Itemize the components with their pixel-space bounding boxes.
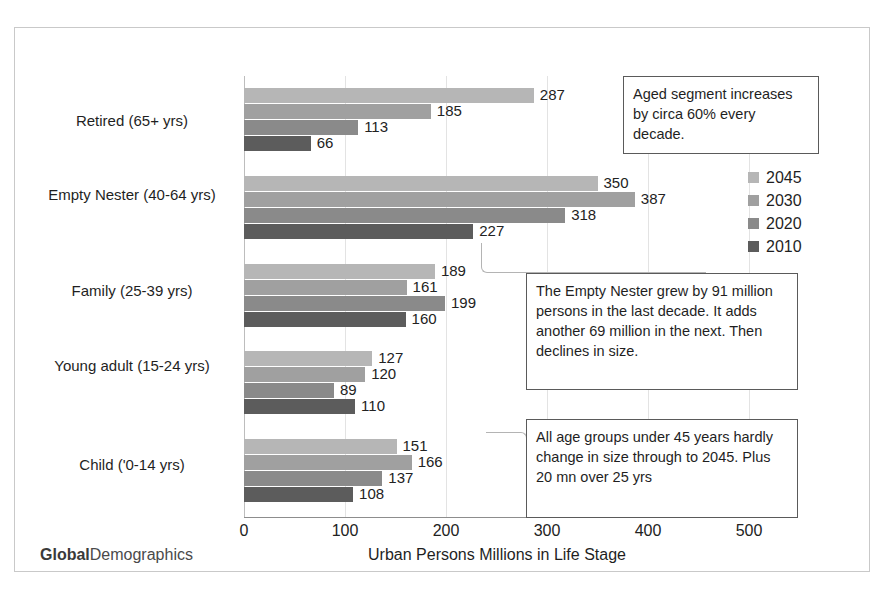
bar-2030[interactable] [244,280,407,295]
x-tick-400: 400 [635,522,662,540]
bar-value-label: 185 [437,103,462,119]
category-label-young-adult: Young adult (15-24 yrs) [27,356,237,376]
legend: 2045203020202010 [748,166,848,258]
x-tick-300: 300 [534,522,561,540]
bar-2010[interactable] [244,487,353,502]
leader-line-empty-nester [481,243,706,273]
bar-value-label: 287 [540,87,565,103]
bar-2020[interactable] [244,296,445,311]
callout-aged-segment: Aged segment increases by circa 60% ever… [623,76,819,154]
legend-swatch-icon [748,241,759,252]
legend-item-2020[interactable]: 2020 [748,212,848,235]
bar-2020[interactable] [244,383,334,398]
leader-line-child [486,432,527,499]
bar-value-label: 318 [571,207,596,223]
bar-value-label: 160 [412,311,437,327]
bar-2020[interactable] [244,208,565,223]
bar-value-label: 89 [340,382,357,398]
bar-value-label: 166 [418,454,443,470]
bar-value-label: 120 [371,366,396,382]
legend-swatch-icon [748,172,759,183]
x-tick-100: 100 [332,522,359,540]
legend-swatch-icon [748,218,759,229]
bar-value-label: 350 [604,175,629,191]
brand-logo: GlobalDemographics [40,546,193,564]
bar-2010[interactable] [244,136,311,151]
bar-2030[interactable] [244,367,365,382]
bar-value-label: 161 [413,279,438,295]
category-label-family: Family (25-39 yrs) [27,281,237,301]
bar-value-label: 151 [403,438,428,454]
bar-value-label: 110 [361,398,385,414]
bar-2045[interactable] [244,439,397,454]
legend-label: 2020 [766,215,802,233]
x-tick-500: 500 [736,522,763,540]
bar-value-label: 66 [317,135,334,151]
brand-logo-bold: Global [40,546,90,563]
bar-2045[interactable] [244,351,372,366]
bar-2020[interactable] [244,120,358,135]
category-label-empty-nester: Empty Nester (40-64 yrs) [27,185,237,205]
bar-value-label: 108 [359,486,384,502]
x-tick-0: 0 [240,522,249,540]
legend-item-2010[interactable]: 2010 [748,235,848,258]
category-label-child: Child ('0-14 yrs) [27,455,237,475]
bar-2010[interactable] [244,399,355,414]
bar-2045[interactable] [244,264,435,279]
bar-value-label: 199 [451,295,476,311]
category-label-retired: Retired (65+ yrs) [27,111,237,131]
x-tick-200: 200 [433,522,460,540]
bar-2045[interactable] [244,176,598,191]
callout-empty-nester: The Empty Nester grew by 91 million pers… [526,273,798,390]
bar-2010[interactable] [244,312,406,327]
bar-2030[interactable] [244,192,635,207]
bar-value-label: 137 [388,470,413,486]
legend-label: 2030 [766,192,802,210]
callout-under-45: All age groups under 45 years hardly cha… [526,419,798,518]
legend-item-2045[interactable]: 2045 [748,166,848,189]
bar-2010[interactable] [244,224,473,239]
legend-swatch-icon [748,195,759,206]
brand-logo-rest: Demographics [90,546,193,563]
bar-row: 110 [244,399,884,414]
category-axis-labels: Retired (65+ yrs) Empty Nester (40-64 yr… [25,28,237,573]
chart-frame: Retired (65+ yrs) Empty Nester (40-64 yr… [14,27,870,572]
legend-label: 2045 [766,169,802,187]
bar-value-label: 113 [364,119,388,135]
legend-item-2030[interactable]: 2030 [748,189,848,212]
bar-2020[interactable] [244,471,382,486]
bar-2030[interactable] [244,455,412,470]
bar-value-label: 387 [641,191,666,207]
bar-2030[interactable] [244,104,431,119]
x-axis-title: Urban Persons Millions in Life Stage [244,546,750,564]
legend-label: 2010 [766,238,802,256]
bar-value-label: 127 [378,350,403,366]
bar-2045[interactable] [244,88,534,103]
bar-value-label: 189 [441,263,466,279]
bar-value-label: 227 [479,223,504,239]
